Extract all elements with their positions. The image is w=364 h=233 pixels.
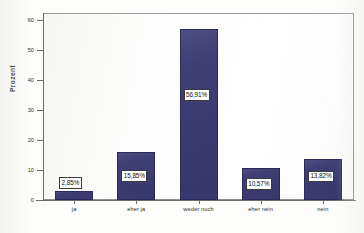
y-axis-line — [43, 13, 44, 201]
x-tick-mark — [74, 200, 75, 204]
x-axis-line — [36, 200, 356, 201]
x-category-label: nein — [290, 206, 356, 212]
y-tick-mark — [37, 140, 43, 141]
bar-value-label: 10,57% — [246, 178, 272, 190]
bar-value-label: 15,85% — [121, 170, 147, 182]
x-tick-mark — [261, 200, 262, 204]
y-tick-label: 50 — [8, 47, 34, 53]
x-category-label: weder noch — [166, 206, 232, 212]
y-tick-label: 30 — [8, 107, 34, 113]
x-category-label: ja — [41, 206, 107, 212]
bar-chart-figure: Prozent 0102030405060 2,85%15,85%56,91%1… — [0, 0, 364, 233]
bar-value-label: 13,82% — [308, 171, 334, 183]
y-tick-label: 0 — [8, 197, 34, 203]
y-tick-mark — [37, 50, 43, 51]
x-category-label: eher nein — [228, 206, 294, 212]
bar — [180, 29, 218, 200]
y-tick-mark — [37, 80, 43, 81]
x-category-label: eher ja — [103, 206, 169, 212]
bar-value-label: 56,91% — [184, 89, 210, 101]
x-tick-mark — [136, 200, 137, 204]
y-tick-label: 60 — [8, 17, 34, 23]
y-tick-label: 20 — [8, 137, 34, 143]
y-tick-mark — [37, 200, 43, 201]
bar-value-label: 2,85% — [59, 177, 82, 189]
x-tick-mark — [199, 200, 200, 204]
y-tick-mark — [37, 170, 43, 171]
x-tick-mark — [323, 200, 324, 204]
y-tick-mark — [37, 20, 43, 21]
y-tick-label: 10 — [8, 167, 34, 173]
y-tick-mark — [37, 110, 43, 111]
bar — [55, 191, 93, 200]
y-tick-label: 40 — [8, 77, 34, 83]
